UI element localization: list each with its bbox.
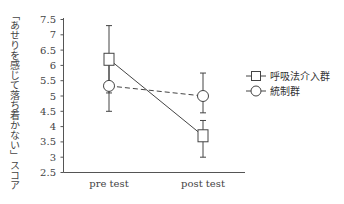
y-tick-label: 4.5 [40, 106, 56, 117]
legend-label-intervention: 呼吸法介入群 [270, 70, 330, 82]
y-tick-label: 3.5 [40, 136, 56, 147]
legend: 呼吸法介入群 統制群 [246, 70, 330, 97]
circle-marker [104, 80, 115, 91]
square-marker [198, 130, 208, 142]
x-label-pre-test: pre test [89, 178, 128, 189]
legend-item-intervention: 呼吸法介入群 [246, 70, 330, 82]
y-tick-label: 5 [50, 91, 56, 102]
y-tick-label: 6 [50, 60, 56, 71]
y-tick-label: 6.5 [40, 45, 56, 56]
y-tick-label: 7 [50, 29, 56, 40]
series-line [109, 86, 203, 96]
y-tick-label: 3 [50, 152, 56, 163]
y-tick-label: 7.5 [40, 14, 56, 25]
y-axis-title: 「あせりを感じて落ち着かない」スコア [9, 10, 20, 190]
legend-item-control: 統制群 [246, 85, 300, 97]
legend-label-control: 統制群 [270, 85, 300, 97]
y-tick-label: 2.5 [40, 167, 56, 178]
plot-area [104, 26, 209, 158]
circle-icon [251, 86, 261, 96]
circle-marker [198, 91, 209, 102]
square-icon [252, 72, 261, 81]
y-axis-ticks: 7.576.565.554.543.532.5 [40, 14, 63, 178]
y-axis-title-text: 「あせりを感じて落ち着かない」スコア [9, 10, 20, 190]
line-chart: 「あせりを感じて落ち着かない」スコア 7.576.565.554.543.532… [0, 0, 344, 204]
y-tick-label: 5.5 [40, 75, 56, 86]
x-label-post-test: post test [181, 178, 225, 189]
axes [64, 18, 246, 173]
square-marker [104, 53, 114, 65]
y-tick-label: 4 [50, 121, 56, 132]
series-line [109, 59, 203, 136]
x-axis-labels: pre test post test [89, 178, 225, 189]
